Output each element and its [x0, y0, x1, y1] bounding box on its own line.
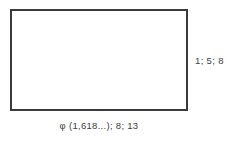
- clipped-caption-text: [0, 141, 235, 148]
- golden-rectangle-shape: [10, 9, 188, 111]
- rectangle-height-label: 1; 5; 8: [195, 54, 224, 67]
- rectangle-width-label: φ (1,618...); 8; 13: [0, 119, 198, 132]
- golden-rectangle-diagram: 1; 5; 8 φ (1,618...); 8; 13: [0, 0, 235, 148]
